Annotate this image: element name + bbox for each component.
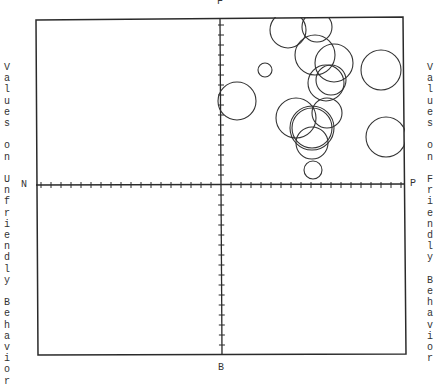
chart-axes xyxy=(36,19,405,355)
bubble-J xyxy=(296,127,328,159)
pole-label-left: N xyxy=(21,180,27,190)
y-axis-label-left: V a l u e s o n U n f r i e n d l y B e … xyxy=(1,62,13,387)
pole-label-top: F xyxy=(217,0,223,7)
pole-label-bottom: B xyxy=(218,363,224,373)
bubble-series xyxy=(218,12,406,179)
bubble-F xyxy=(308,65,344,101)
bubble-G xyxy=(276,98,316,138)
bubble-L xyxy=(218,82,256,120)
bubble-M xyxy=(258,63,272,77)
bubble-N xyxy=(361,50,401,90)
pole-label-right: P xyxy=(410,179,416,189)
bubble-O xyxy=(366,117,406,157)
bubble-H xyxy=(312,98,342,128)
y-axis-label-right: V a l u e s o n F r i e n d l y B e h a … xyxy=(424,62,436,364)
bubble-K xyxy=(304,161,322,179)
